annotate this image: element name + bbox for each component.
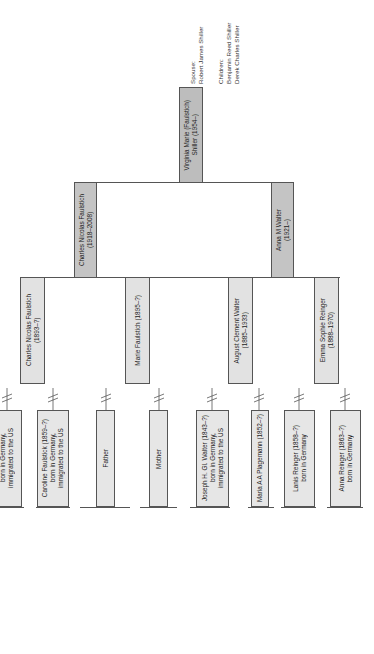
couple-baseline xyxy=(248,507,274,508)
great-grandparent-box-1: born in Germany, immigrated to the US xyxy=(0,410,22,507)
spouse-label: Spouse: xyxy=(189,61,196,84)
great-grandparent-box-5: Joseph H. Gl. Walter (1843–?) born in Ge… xyxy=(196,410,229,507)
couple-baseline xyxy=(0,507,24,508)
great-grandparent-1-text: born in Germany, immigrated to the US xyxy=(0,428,15,488)
grandparent-1-name: Charles Nicolas Faulstich xyxy=(25,294,32,366)
child-1: Benjamin Reed Shiller xyxy=(225,23,232,84)
grandparent-box-3: August Clement Walter (1885–1933) xyxy=(228,277,253,384)
grandparent-3-name: August Clement Walter xyxy=(233,298,240,363)
great-grandparent-8-text: Anna Reinger (1863–?) born in Germany xyxy=(338,425,354,491)
grandparent-2-name: Marie Faulstich (1895–?) xyxy=(134,295,141,366)
spouse-name: Robert James Shiller xyxy=(197,27,204,84)
connector-grandparents xyxy=(20,277,340,278)
couple-baseline xyxy=(36,507,70,508)
break-icon xyxy=(2,388,12,410)
break-icon xyxy=(101,388,111,410)
great-grandparent-6-text: Maria A A Plagemann (1852–?) xyxy=(256,414,264,502)
great-grandparent-4-text: Mother xyxy=(155,449,163,469)
spouse-annotation: Spouse: Robert James Shiller xyxy=(181,14,205,84)
great-grandparent-box-6: Maria A A Plagemann (1852–?) xyxy=(251,410,269,507)
great-grandparent-box-7: Lanis Reinger (1858–?) born in Germany xyxy=(284,410,315,507)
parent-mother-box: Anna M Walter (1921–) xyxy=(271,182,294,278)
break-icon xyxy=(254,388,264,410)
children-annotation: Children: Benjamin Reed Shiller Derek Ch… xyxy=(209,14,241,84)
parent-father-dates: (1918–2008) xyxy=(86,212,93,248)
grandparent-3-dates: (1885–1933) xyxy=(241,312,248,348)
great-grandparent-2-text: Caroline Faulstick (1859–?) born in Germ… xyxy=(41,419,65,497)
connector-parents xyxy=(74,182,294,183)
parent-father-box: Charles Nicolas Faulstich (1918–2008) xyxy=(74,182,97,278)
grandparent-4-name: Emma Sophie Reinger xyxy=(319,298,326,362)
parent-mother-name: Anna M Walter xyxy=(275,209,282,251)
couple-baseline xyxy=(140,507,177,508)
grandparent-1-dates: (1893–?) xyxy=(33,318,40,344)
couple-baseline xyxy=(327,507,363,508)
great-grandparent-5-text: Joseph H. Gl. Walter (1843–?) born in Ge… xyxy=(201,415,225,501)
parent-father-name: Charles Nicolas Faulstich xyxy=(78,194,85,266)
break-icon xyxy=(294,388,304,410)
grandparent-box-2: Marie Faulstich (1895–?) xyxy=(125,277,150,384)
child-2: Derek Charles Shiller xyxy=(233,26,240,84)
grandparent-4-dates: (1888–1970) xyxy=(327,312,334,348)
subject-box: Virginia Marie (Faulstich) Shiller (1954… xyxy=(179,87,203,183)
grandparent-box-1: Charles Nicolas Faulstich (1893–?) xyxy=(20,277,45,384)
grandparent-box-4: Emma Sophie Reinger (1888–1970) xyxy=(314,277,339,384)
great-grandparent-3-text: Father xyxy=(102,449,110,467)
couple-baseline xyxy=(281,507,316,508)
parent-mother-dates: (1921–) xyxy=(283,219,290,241)
break-icon xyxy=(340,388,350,410)
break-icon xyxy=(207,388,217,410)
break-icon xyxy=(154,388,164,410)
great-grandparent-box-8: Anna Reinger (1863–?) born in Germany xyxy=(330,410,361,507)
children-label: Children: xyxy=(217,59,224,84)
great-grandparent-7-text: Lanis Reinger (1858–?) born in Germany xyxy=(292,425,308,492)
great-grandparent-box-2: Caroline Faulstick (1859–?) born in Germ… xyxy=(37,410,69,507)
couple-baseline xyxy=(190,507,230,508)
break-icon xyxy=(48,388,58,410)
great-grandparent-box-4: Mother xyxy=(149,410,168,507)
great-grandparent-box-3: Father xyxy=(96,410,115,507)
subject-name-line2: Shiller (1954–) xyxy=(191,114,198,156)
subject-name-line1: Virginia Marie (Faulstich) xyxy=(183,100,190,171)
couple-baseline xyxy=(80,507,130,508)
